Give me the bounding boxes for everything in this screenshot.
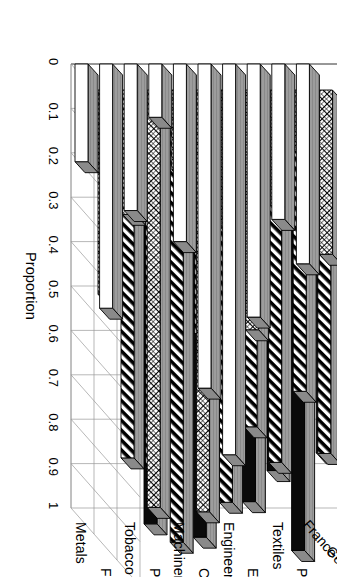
category-label-food: Food	[98, 568, 114, 577]
bar-face	[296, 64, 309, 264]
bar-face	[113, 64, 123, 319]
bar-face	[137, 64, 147, 222]
category-label-electrical: Electrical	[245, 568, 261, 577]
category-label-metals: Metals	[73, 522, 89, 564]
bar-face	[272, 64, 285, 219]
category-label-petroleum: Petroleum	[147, 568, 163, 577]
value-tick-label-1: 0.1	[46, 102, 61, 120]
category-label-tobacco: Tobacco	[122, 522, 138, 575]
bar-face	[223, 64, 236, 455]
value-tick-label-0: 0	[46, 58, 61, 65]
bar-face	[88, 64, 98, 173]
bar-france-textiles	[272, 64, 295, 230]
value-axis-title: Proportion	[23, 252, 39, 320]
category-label-chemicals: Chemicals	[196, 568, 212, 577]
bar-france-machinery	[173, 64, 196, 253]
bar-face	[149, 64, 162, 117]
bar-france-tobacco	[124, 64, 147, 222]
value-tick-label-2: 0.2	[46, 147, 61, 165]
value-tick-label-10: 1	[46, 502, 61, 509]
bar-france-food	[100, 64, 123, 319]
bar-face	[124, 64, 137, 211]
value-tick-label-9: 0.9	[46, 458, 61, 476]
category-label-textiles: Textiles	[270, 522, 286, 569]
category-label-engineering: Engineering	[221, 522, 237, 577]
bar-face	[332, 90, 337, 265]
bar-france-paper	[296, 64, 319, 275]
bar-face	[173, 64, 186, 242]
bar-face	[285, 64, 295, 230]
bar-france-chemicals	[198, 64, 221, 399]
value-tick-label-8: 0.8	[46, 413, 61, 431]
bar-france-electrical	[247, 64, 270, 328]
value-tick-label-5: 0.5	[46, 280, 61, 298]
value-tick-label-4: 0.4	[46, 236, 61, 254]
bar-germany-paper	[319, 90, 337, 265]
bar-france-engineering	[223, 64, 246, 466]
value-tick-label-7: 0.7	[46, 369, 61, 387]
bar-face	[247, 64, 260, 317]
bar-face	[260, 64, 270, 328]
bar-face	[319, 90, 332, 254]
bar-face	[309, 64, 319, 275]
category-label-machinery: Machinery	[171, 522, 187, 577]
bar-face	[160, 90, 170, 518]
value-tick-label-3: 0.3	[46, 191, 61, 209]
bar-france-metals	[75, 64, 98, 173]
bar-face	[186, 64, 196, 253]
bar-face	[211, 64, 221, 399]
chart-figure-rotated: 00.10.20.30.40.50.60.70.80.91ProportionM…	[0, 0, 337, 577]
value-tick-label-6: 0.6	[46, 324, 61, 342]
category-label-paper: Paper	[294, 568, 310, 577]
bar-face	[236, 64, 246, 466]
bar-face	[147, 90, 160, 507]
bar-france-petroleum	[149, 64, 172, 128]
bar-germany-tobacco	[147, 90, 170, 518]
bar-face	[198, 64, 211, 388]
bar-face	[75, 64, 88, 162]
bar-face	[100, 64, 113, 308]
chart-figure: 00.10.20.30.40.50.60.70.80.91ProportionM…	[0, 0, 337, 577]
